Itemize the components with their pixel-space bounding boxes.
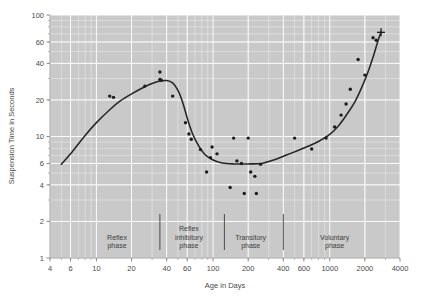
- data-point: [339, 113, 342, 116]
- y-tick-label: 20: [36, 96, 44, 105]
- phase-label-line: phase: [241, 242, 260, 250]
- phase-label-line: phase: [179, 242, 198, 250]
- x-tick-label: 4000: [392, 264, 409, 273]
- data-point: [210, 145, 213, 148]
- data-point: [108, 94, 111, 97]
- data-point: [259, 163, 262, 166]
- y-tick-label: 4: [40, 181, 44, 190]
- y-axis-title: Suspension Time in Seconds: [7, 87, 16, 184]
- data-point: [158, 70, 161, 73]
- data-point: [349, 88, 352, 91]
- phase-label-line: phase: [107, 242, 126, 250]
- phase-label-line: Transitory: [235, 234, 266, 242]
- phase-label-line: Reflex: [179, 225, 199, 232]
- data-point: [160, 79, 163, 82]
- x-tick-label: 6: [68, 264, 72, 273]
- data-point: [363, 73, 366, 76]
- data-point: [143, 84, 146, 87]
- x-axis-tick-labels: 4610204060100200400600100020004000: [48, 264, 408, 273]
- data-point: [240, 162, 243, 165]
- x-tick-label: 1000: [321, 264, 338, 273]
- y-tick-label: 1: [40, 254, 44, 263]
- data-point: [112, 96, 115, 99]
- data-point: [356, 58, 359, 61]
- data-point: [253, 175, 256, 178]
- y-axis-tick-labels: 124610204060100: [31, 11, 44, 263]
- x-tick-label: 40: [163, 264, 171, 273]
- y-tick-label: 40: [36, 59, 44, 68]
- y-tick-label: 10: [36, 132, 44, 141]
- y-tick-label: 2: [40, 217, 44, 226]
- suspension-time-scatter-plot: 4610204060100200400600100020004000 12461…: [0, 0, 423, 307]
- x-tick-label: 200: [242, 264, 255, 273]
- x-tick-label: 600: [298, 264, 311, 273]
- x-axis-title: Age in Days: [205, 281, 246, 290]
- data-point: [371, 36, 374, 39]
- data-point: [187, 132, 190, 135]
- data-point: [184, 121, 187, 124]
- data-point: [249, 170, 252, 173]
- data-point: [209, 156, 212, 159]
- x-tick-label: 100: [207, 264, 220, 273]
- data-point: [199, 148, 202, 151]
- data-point: [235, 159, 238, 162]
- phase-label-line: Reflex: [107, 234, 127, 241]
- data-point: [310, 147, 313, 150]
- phase-label-line: Voluntary: [320, 234, 350, 242]
- data-point: [228, 186, 231, 189]
- x-tick-label: 2000: [357, 264, 374, 273]
- data-point: [215, 152, 218, 155]
- data-point: [190, 138, 193, 141]
- x-tick-label: 400: [277, 264, 290, 273]
- y-tick-label: 100: [31, 11, 44, 20]
- data-point: [232, 136, 235, 139]
- data-point: [171, 94, 174, 97]
- data-point: [344, 102, 347, 105]
- x-tick-label: 20: [127, 264, 135, 273]
- phase-label-line: phase: [325, 242, 344, 250]
- chart-figure: 4610204060100200400600100020004000 12461…: [0, 0, 423, 307]
- phase-label-line: inhibitory: [175, 234, 204, 242]
- data-point: [255, 192, 258, 195]
- x-tick-label: 4: [48, 264, 52, 273]
- data-point: [374, 39, 377, 42]
- y-tick-label: 60: [36, 38, 44, 47]
- data-point: [247, 136, 250, 139]
- data-point: [324, 136, 327, 139]
- data-point: [243, 192, 246, 195]
- x-tick-label: 10: [92, 264, 100, 273]
- x-tick-label: 60: [183, 264, 191, 273]
- data-point: [205, 170, 208, 173]
- data-point: [293, 136, 296, 139]
- y-tick-label: 6: [40, 159, 44, 168]
- data-point: [333, 125, 336, 128]
